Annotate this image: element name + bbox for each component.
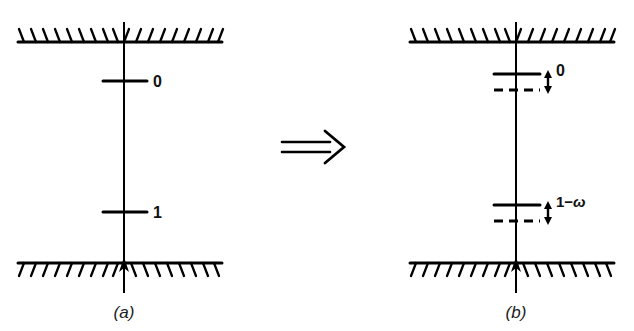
panel-a-top-wall <box>18 29 223 42</box>
level-0-label: 0 <box>153 73 162 90</box>
transform-arrow-icon <box>282 131 344 163</box>
panel-b-level-0: 0 <box>494 62 565 94</box>
figure-root: 0 1 (a) <box>0 0 634 331</box>
panel-b-caption: (b) <box>506 303 527 322</box>
panel-b-bottom-wall <box>410 257 614 276</box>
panel-a-bottom-wall <box>18 257 222 276</box>
bottom-wall-hatching-left <box>411 263 510 276</box>
top-wall-hatching-right <box>124 29 223 42</box>
panel-b: 0 1−ω (b) <box>410 22 615 322</box>
bottom-wall-hatching-right <box>523 263 611 276</box>
level-1-label-prefix: 1− <box>556 193 573 210</box>
panel-a-level-0: 0 <box>103 73 162 90</box>
level-0-shift-arrow <box>544 70 552 94</box>
bottom-wall-hatching-left <box>19 263 118 276</box>
top-wall-hatching-right <box>516 29 615 42</box>
figure-canvas: 0 1 (a) <box>0 0 634 331</box>
top-wall-hatching-left <box>411 29 510 42</box>
panel-b-top-wall <box>410 29 615 42</box>
level-1-label-omega-symbol: ω <box>573 193 586 210</box>
panel-a-caption: (a) <box>114 303 135 322</box>
top-wall-hatching-left <box>19 29 118 42</box>
level-1-label: 1 <box>153 204 162 221</box>
level-1-shift-arrow <box>544 201 552 225</box>
level-1-label: 1−ω <box>556 193 586 210</box>
panel-a: 0 1 (a) <box>18 22 223 322</box>
bottom-wall-hatching-right <box>131 263 219 276</box>
panel-a-level-1: 1 <box>103 204 162 221</box>
level-0-label: 0 <box>556 62 565 79</box>
panel-b-level-1: 1−ω <box>494 193 586 225</box>
